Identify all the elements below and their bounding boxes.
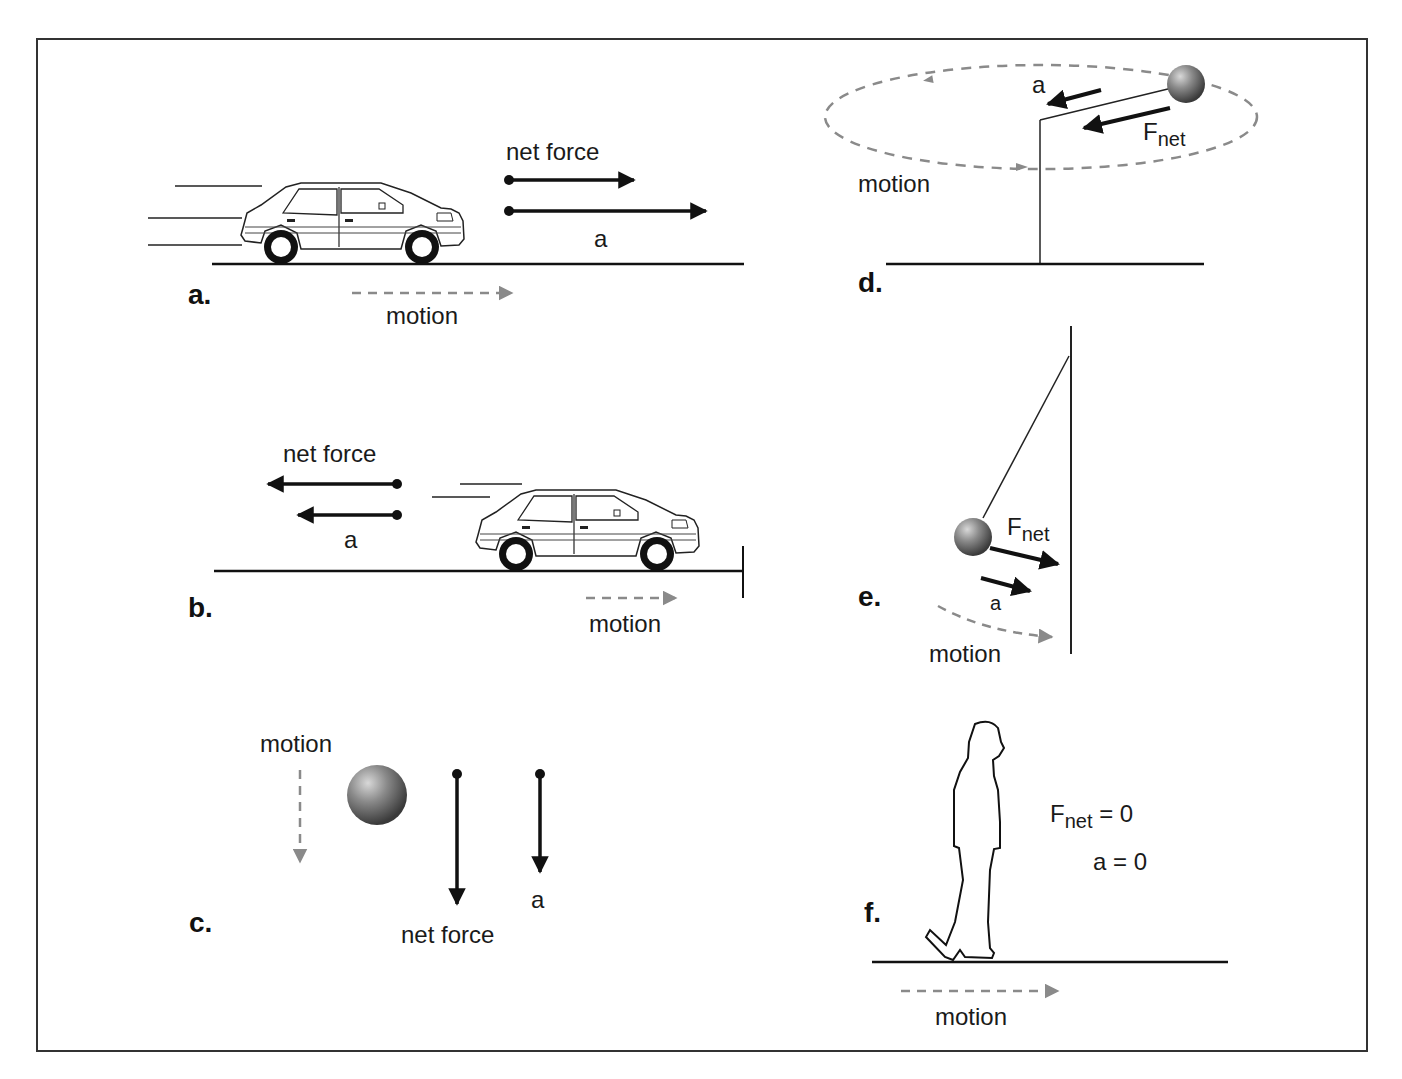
motion-label: motion (929, 640, 1001, 667)
accel-label: a (344, 526, 358, 553)
fnet-label: Fnet (1007, 513, 1050, 545)
acceleration-arrow (981, 578, 1030, 591)
accel-equation: a = 0 (1093, 848, 1147, 875)
net-force-label: net force (506, 138, 599, 165)
string (983, 356, 1069, 518)
panel-f: Fnet = 0 a = 0 motion f. (864, 722, 1228, 1030)
net-force-arrow (990, 548, 1058, 564)
net-force-label: net force (401, 921, 494, 948)
fnet-equation: Fnet = 0 (1050, 800, 1133, 832)
panel-d: a Fnet motion d. (825, 65, 1257, 298)
accel-label: a (990, 592, 1002, 614)
physics-figure: net force a motion a. net force a motion… (0, 0, 1402, 1079)
motion-label: motion (386, 302, 458, 329)
car-icon (241, 183, 464, 264)
panel-label-d: d. (858, 267, 883, 298)
panel-e: Fnet a motion e. (858, 326, 1071, 667)
panel-c: motion a net force c. (189, 730, 545, 948)
panel-label-b: b. (188, 592, 213, 623)
net-force-label: net force (283, 440, 376, 467)
accel-label: a (1032, 71, 1046, 98)
ball-icon (347, 765, 407, 825)
panel-b: net force a motion b. (188, 440, 744, 637)
panel-label-a: a. (188, 279, 211, 310)
acceleration-arrow (1048, 90, 1101, 104)
motion-arrowhead (1016, 163, 1028, 171)
panel-label-f: f. (864, 897, 881, 928)
panel-label-c: c. (189, 907, 212, 938)
motion-label: motion (858, 170, 930, 197)
accel-label: a (531, 886, 545, 913)
ball-icon (954, 518, 992, 556)
walking-person-icon (926, 722, 1004, 960)
panel-label-e: e. (858, 581, 881, 612)
panel-a: net force a motion a. (148, 138, 744, 329)
motion-label: motion (260, 730, 332, 757)
fnet-label: Fnet (1143, 118, 1186, 150)
motion-arrowhead (922, 75, 933, 85)
accel-label: a (594, 225, 608, 252)
motion-label: motion (935, 1003, 1007, 1030)
ball-icon (1167, 65, 1205, 103)
car-icon (476, 490, 699, 571)
motion-label: motion (589, 610, 661, 637)
string (1040, 88, 1172, 120)
